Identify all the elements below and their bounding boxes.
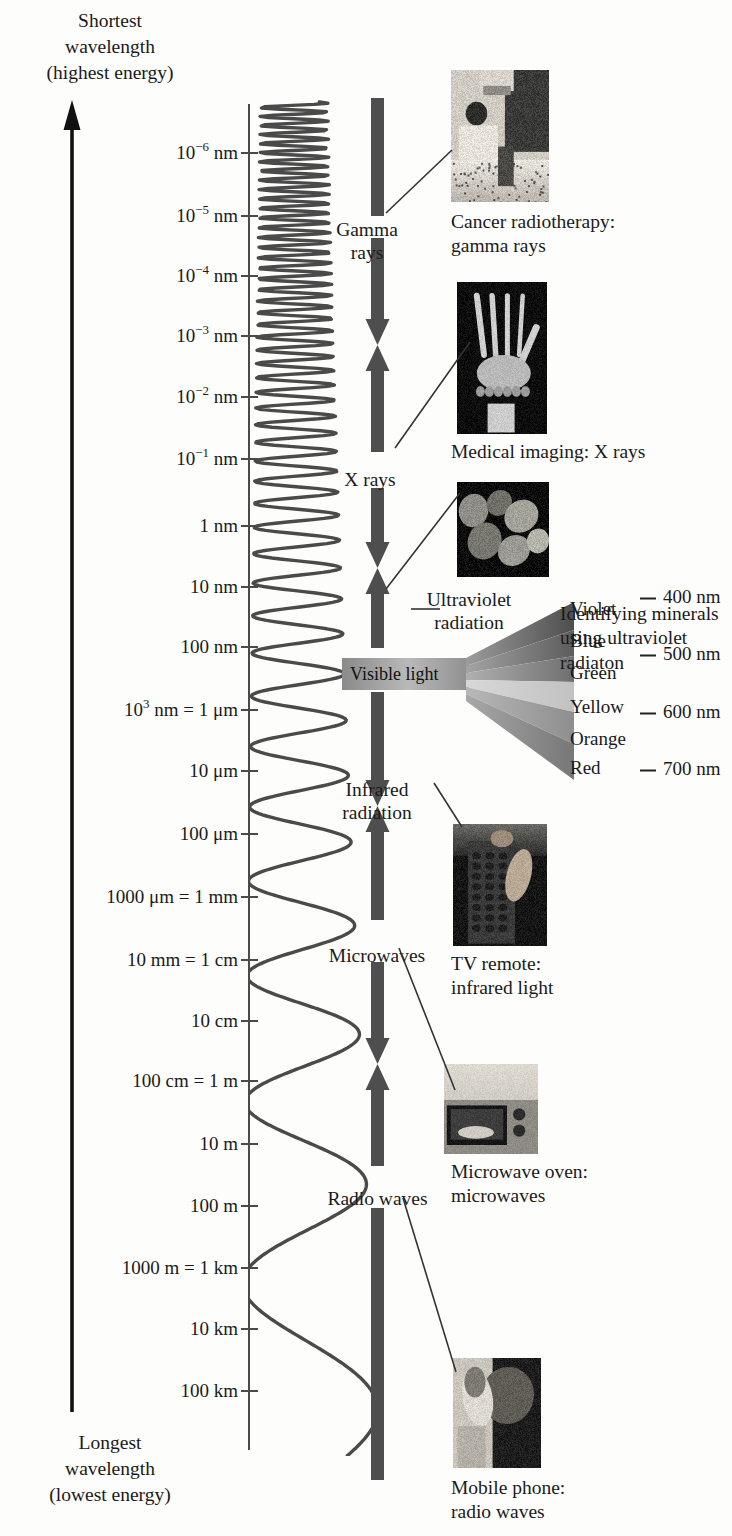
leader-gamma	[386, 150, 452, 213]
leader-radio	[403, 1198, 456, 1372]
photo-leader-lines	[0, 0, 732, 1536]
leader-infrared	[434, 783, 462, 827]
leader-microwave	[399, 948, 455, 1090]
leader-uv	[386, 493, 460, 589]
leader-xray	[395, 342, 470, 448]
electromagnetic-spectrum-figure: Shortest wavelength (highest energy) Lon…	[0, 0, 732, 1536]
